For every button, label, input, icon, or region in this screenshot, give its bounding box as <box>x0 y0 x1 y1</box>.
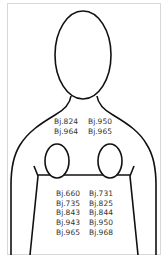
label: Bj.735 <box>56 199 80 209</box>
label: Bj.950 <box>88 117 112 127</box>
label: Bj.964 <box>54 127 78 137</box>
label: Bj.943 <box>56 218 80 228</box>
left-torso-line <box>30 166 38 255</box>
label: Bj.824 <box>54 117 78 127</box>
right-chest-oval <box>98 144 122 178</box>
upper-labels-right: Bj.950 Bj.965 <box>88 117 112 136</box>
body-silhouette <box>0 0 167 259</box>
label: Bj.731 <box>89 189 113 199</box>
head-outline <box>55 11 111 99</box>
label: Bj.965 <box>56 228 80 238</box>
label: Bj.950 <box>89 218 113 228</box>
torso-labels-left: Bj.660 Bj.735 Bj.843 Bj.943 Bj.965 <box>56 189 80 238</box>
right-torso-line <box>130 166 138 255</box>
label: Bj.660 <box>56 189 80 199</box>
label: Bj.844 <box>89 208 113 218</box>
left-chest-oval <box>45 144 69 178</box>
label: Bj.843 <box>56 208 80 218</box>
label: Bj.825 <box>89 199 113 209</box>
upper-labels-left: Bj.824 Bj.964 <box>54 117 78 136</box>
torso-labels-right: Bj.731 Bj.825 Bj.844 Bj.950 Bj.968 <box>89 189 113 238</box>
label: Bj.965 <box>88 127 112 137</box>
label: Bj.968 <box>89 228 113 238</box>
